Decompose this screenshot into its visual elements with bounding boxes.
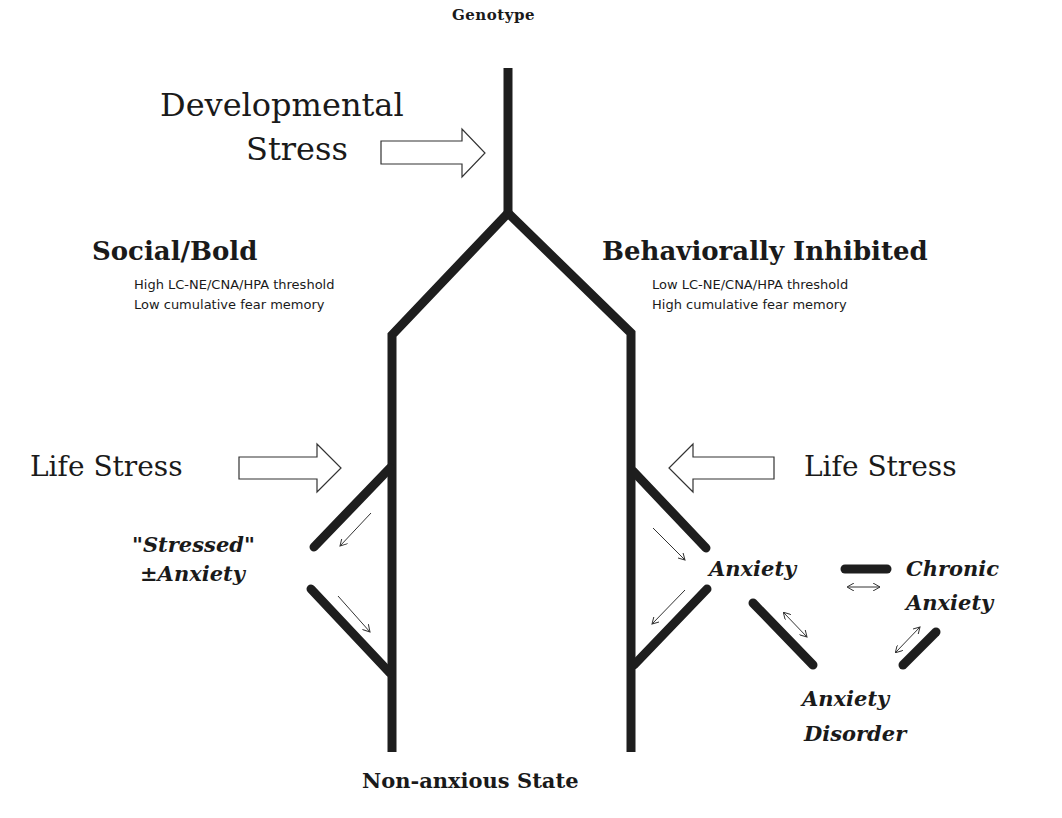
fork-right [508, 213, 631, 752]
diagram-canvas: Genotype Developmental Stress Social/Bol… [0, 0, 1062, 818]
chronic-disorder-bar [903, 632, 936, 665]
inhibited-desc1: Low LC-NE/CNA/HPA threshold [652, 277, 848, 292]
fork-left [392, 213, 508, 752]
anxiety-disorder-line2: Disorder [804, 721, 906, 746]
left-life-stress-arrow [239, 444, 341, 492]
stressed-label: "Stressed" [132, 532, 255, 557]
right-return-branch [634, 589, 707, 665]
behaviorally-inhibited-title: Behaviorally Inhibited [602, 236, 928, 266]
left-return-branch [311, 589, 390, 673]
anxiety-disorder-line1: Anxiety [802, 686, 889, 711]
social-bold-title: Social/Bold [92, 236, 257, 266]
arrow-right-in [653, 528, 685, 560]
non-anxious-state-label: Non-anxious State [362, 768, 579, 793]
anxiety-label: Anxiety [709, 556, 796, 581]
social-bold-desc2: Low cumulative fear memory [134, 297, 324, 312]
right-anxiety-branch [633, 471, 706, 548]
left-life-stress-label: Life Stress [30, 450, 183, 483]
anxiety-plusminus-label: ±Anxiety [140, 561, 245, 586]
genotype-label: Genotype [452, 6, 535, 24]
social-bold-desc1: High LC-NE/CNA/HPA threshold [134, 277, 334, 292]
developmental-stress-line2: Stress [246, 130, 348, 168]
inhibited-desc2: High cumulative fear memory [652, 297, 847, 312]
chronic-anxiety-line2: Anxiety [906, 590, 993, 615]
right-life-stress-arrow [669, 444, 774, 492]
chronic-anxiety-line1: Chronic [906, 556, 999, 581]
right-life-stress-label: Life Stress [804, 450, 957, 483]
developmental-stress-arrow [381, 129, 485, 177]
developmental-stress-line1: Developmental [160, 86, 404, 124]
